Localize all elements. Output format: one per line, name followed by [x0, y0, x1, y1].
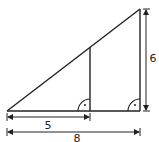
right-angle-marker-inner — [78, 99, 90, 111]
outer-height-label: 6 — [150, 52, 157, 65]
hypotenuse — [7, 9, 140, 111]
large-triangle — [7, 9, 140, 111]
inner-base-label: 5 — [45, 119, 52, 132]
triangle-diagram: 5 8 6 — [0, 0, 159, 142]
outer-base-label: 8 — [74, 132, 81, 142]
right-angle-marker-outer — [128, 99, 140, 111]
